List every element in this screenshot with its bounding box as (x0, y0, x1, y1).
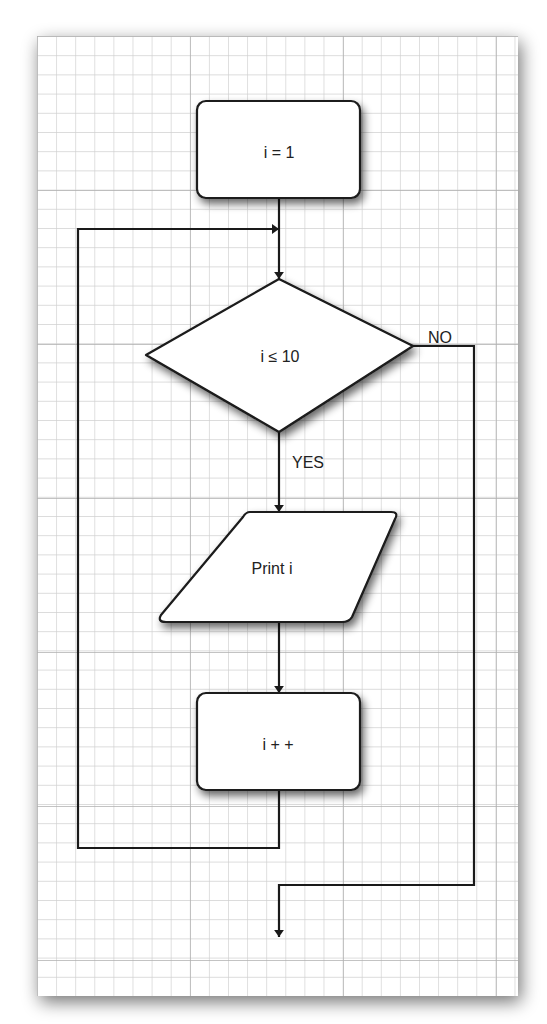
node-print-label: Print i (252, 560, 293, 577)
label-no: NO (428, 329, 452, 346)
node-condition-label: i ≤ 10 (260, 348, 299, 365)
node-init: i = 1 (197, 101, 360, 198)
flowchart-canvas: i = 1 i ≤ 10 NO YES Print i i + + (0, 0, 547, 1024)
node-increment: i + + (197, 693, 360, 790)
node-init-label: i = 1 (264, 144, 295, 161)
node-increment-label: i + + (262, 736, 293, 753)
label-yes: YES (292, 454, 324, 471)
